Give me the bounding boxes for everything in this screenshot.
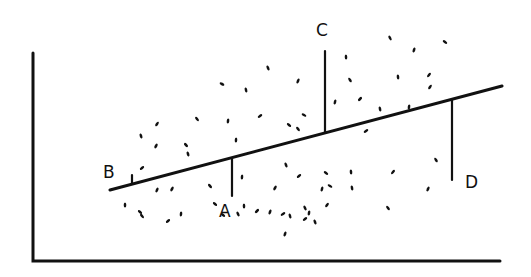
data-point: [349, 169, 352, 174]
data-point: [324, 202, 329, 208]
regression-diagram: [0, 0, 531, 277]
data-point: [412, 47, 416, 53]
data-point: [155, 187, 160, 193]
data-point: [254, 208, 260, 213]
data-point: [286, 122, 292, 127]
data-point: [236, 211, 241, 217]
data-point: [313, 219, 317, 225]
data-point: [296, 78, 300, 84]
axis-lines: [33, 53, 500, 261]
data-point: [124, 202, 127, 207]
data-point: [302, 216, 308, 221]
data-point: [139, 213, 144, 219]
data-point: [333, 99, 337, 105]
data-point: [179, 211, 182, 216]
data-point: [427, 84, 432, 90]
data-point: [357, 96, 363, 102]
label-d: D: [465, 174, 478, 191]
data-point: [385, 205, 390, 211]
data-point: [303, 205, 308, 211]
data-point: [442, 39, 448, 44]
data-point: [320, 186, 324, 192]
data-point: [243, 203, 246, 208]
data-point: [396, 74, 399, 79]
data-point: [139, 165, 145, 170]
data-point: [350, 185, 354, 191]
data-point: [284, 162, 288, 168]
data-point: [235, 137, 238, 142]
data-point: [347, 77, 352, 83]
data-point: [307, 210, 310, 216]
data-point: [273, 185, 278, 191]
data-point: [186, 151, 190, 157]
data-point: [388, 35, 393, 41]
data-point: [280, 211, 286, 216]
data-point: [390, 169, 395, 175]
data-point: [296, 173, 302, 178]
data-point: [226, 118, 229, 124]
data-point: [295, 126, 300, 132]
scatter-points: [124, 35, 448, 237]
data-point: [426, 72, 431, 78]
data-point: [426, 186, 431, 192]
data-point: [154, 143, 159, 149]
label-b: B: [103, 164, 115, 181]
label-c: C: [316, 22, 328, 39]
data-point: [212, 201, 218, 206]
data-point: [137, 209, 143, 214]
data-point: [219, 82, 225, 87]
data-point: [170, 186, 175, 192]
data-point: [283, 231, 287, 237]
residual-lines: [132, 51, 452, 196]
data-point: [434, 157, 439, 163]
axes: [33, 53, 500, 261]
data-point: [266, 65, 270, 71]
data-point: [244, 87, 248, 93]
data-point: [363, 128, 369, 133]
data-point: [327, 184, 333, 189]
data-point: [241, 174, 244, 179]
best-fit-line: [110, 86, 502, 190]
data-point: [154, 121, 159, 127]
regression-line: [110, 86, 502, 190]
data-point: [183, 142, 188, 148]
data-point: [257, 113, 263, 118]
data-point: [165, 218, 171, 223]
data-point: [139, 133, 143, 139]
data-point: [207, 183, 212, 189]
data-point: [301, 113, 307, 118]
data-point: [288, 213, 292, 219]
data-point: [345, 54, 348, 59]
data-point: [323, 170, 329, 175]
label-a: A: [219, 203, 231, 220]
data-point: [378, 106, 382, 112]
data-point: [268, 209, 272, 215]
data-point: [194, 116, 199, 122]
